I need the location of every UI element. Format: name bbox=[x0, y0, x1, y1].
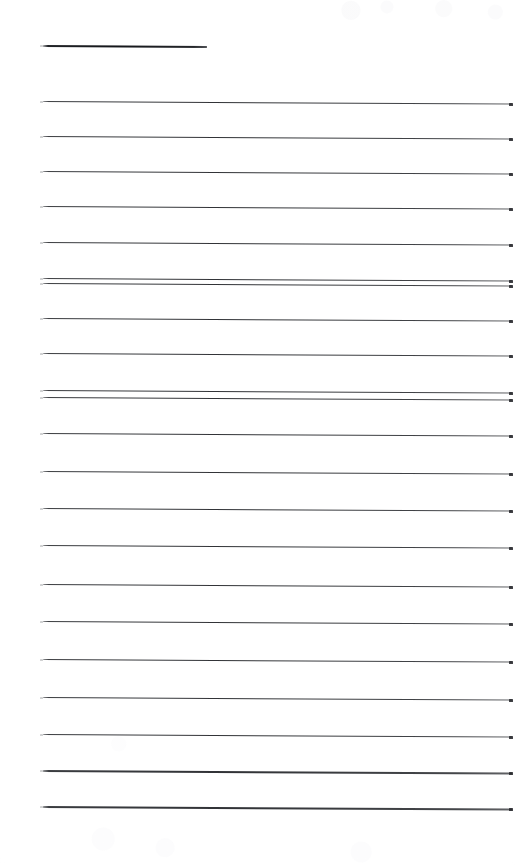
title-rule-line bbox=[43, 45, 207, 48]
ruled-line bbox=[43, 697, 512, 701]
ruled-line-start-cap bbox=[40, 770, 43, 773]
ruled-line-start-cap bbox=[40, 278, 43, 281]
ruled-line-start-cap bbox=[40, 471, 43, 474]
ruled-line bbox=[43, 278, 512, 282]
ruled-line bbox=[43, 508, 512, 512]
ruled-line-start-cap bbox=[40, 390, 43, 393]
ruled-line-start-cap bbox=[40, 433, 43, 436]
ruled-line-start-cap bbox=[40, 397, 43, 400]
ruled-line-end-cap bbox=[509, 173, 513, 176]
ruled-line-start-cap bbox=[40, 545, 43, 548]
ruled-line-start-cap bbox=[40, 697, 43, 700]
ruled-line bbox=[43, 433, 512, 437]
ruled-line-end-cap bbox=[509, 772, 513, 775]
ruled-line bbox=[43, 471, 512, 475]
ruled-line-start-cap bbox=[40, 806, 43, 809]
ruled-line-end-cap bbox=[509, 280, 513, 283]
ruled-line-end-cap bbox=[509, 736, 513, 739]
ruled-line bbox=[43, 621, 512, 625]
ruled-line-start-cap bbox=[40, 283, 43, 286]
ruled-line bbox=[43, 318, 512, 322]
ruled-line bbox=[43, 206, 512, 210]
ruled-line bbox=[43, 734, 512, 738]
ruled-line-start-cap bbox=[40, 659, 43, 662]
ruled-line-start-cap bbox=[40, 508, 43, 511]
ruled-line-end-cap bbox=[509, 285, 513, 288]
ruled-line-end-cap bbox=[509, 661, 513, 664]
ruled-line bbox=[43, 806, 512, 810]
ruled-line bbox=[43, 283, 512, 287]
ruled-line-end-cap bbox=[509, 473, 513, 476]
ruled-line-start-cap bbox=[40, 584, 43, 587]
ruled-line-end-cap bbox=[509, 510, 513, 513]
ruled-line-start-cap bbox=[40, 45, 43, 48]
ruled-line bbox=[43, 136, 512, 140]
ruled-line-end-cap bbox=[509, 244, 513, 247]
ruled-line-end-cap bbox=[509, 399, 513, 402]
ruled-line-start-cap bbox=[40, 734, 43, 737]
ruled-line-start-cap bbox=[40, 318, 43, 321]
scanned-page bbox=[0, 0, 516, 865]
ruled-lines-layer bbox=[0, 0, 516, 865]
ruled-line bbox=[43, 101, 512, 105]
ruled-line-end-cap bbox=[509, 392, 513, 395]
ruled-line-end-cap bbox=[509, 355, 513, 358]
ruled-line-end-cap bbox=[509, 623, 513, 626]
ruled-line bbox=[43, 659, 512, 663]
ruled-line bbox=[43, 390, 512, 394]
ruled-line-end-cap bbox=[509, 103, 513, 106]
ruled-line-end-cap bbox=[509, 138, 513, 141]
ruled-line-end-cap bbox=[509, 586, 513, 589]
ruled-line bbox=[43, 397, 512, 401]
ruled-line bbox=[43, 353, 512, 357]
ruled-line-start-cap bbox=[40, 206, 43, 209]
ruled-line-start-cap bbox=[40, 621, 43, 624]
ruled-line-start-cap bbox=[40, 101, 43, 104]
ruled-line-end-cap bbox=[509, 808, 513, 811]
ruled-line-end-cap bbox=[509, 699, 513, 702]
ruled-line-start-cap bbox=[40, 171, 43, 174]
ruled-line-start-cap bbox=[40, 136, 43, 139]
ruled-line-start-cap bbox=[40, 353, 43, 356]
ruled-line bbox=[43, 545, 512, 549]
ruled-line bbox=[43, 584, 512, 588]
ruled-line-end-cap bbox=[509, 547, 513, 550]
ruled-line-end-cap bbox=[509, 208, 513, 211]
ruled-line-end-cap bbox=[509, 435, 513, 438]
ruled-line-start-cap bbox=[40, 242, 43, 245]
ruled-line-end-cap bbox=[509, 320, 513, 323]
ruled-line bbox=[43, 171, 512, 175]
ruled-line bbox=[43, 770, 512, 774]
ruled-line bbox=[43, 242, 512, 246]
